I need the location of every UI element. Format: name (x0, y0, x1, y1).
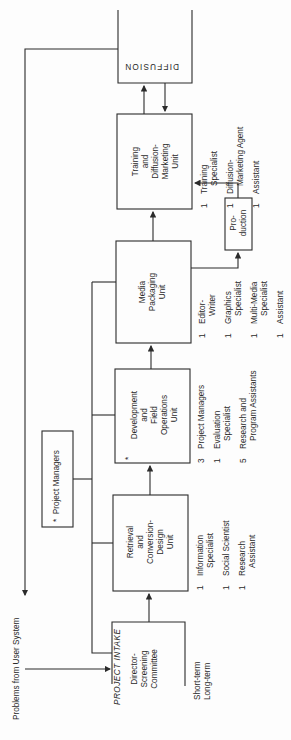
feedback-arrow (25, 49, 118, 595)
development-unit-label: Development and Field Operations Unit (130, 375, 180, 455)
retrieval-unit-label: Retrieval and Conversion- Design Unit (126, 499, 176, 585)
retrieval-staff-list: 1InformationSpecialist 1Social Scientist… (196, 390, 264, 590)
input-label: Problems from User System (12, 618, 22, 720)
project-intake-committee: Director- Screening Committee (130, 638, 160, 700)
media-unit-label: Media Packaging Unit (138, 254, 168, 330)
project-intake-terms: Short-term Long-term (193, 640, 213, 700)
development-unit-marker: * (124, 457, 134, 460)
diffusion-box (118, 10, 192, 83)
project-intake-title: PROJECT INTAKE (113, 629, 123, 705)
training-unit-label: Training and Diffusion- Marketing Unit (131, 115, 181, 208)
project-managers-label: * Project Managers (52, 432, 62, 522)
diffusion-label: DIFFUSION (131, 62, 179, 71)
